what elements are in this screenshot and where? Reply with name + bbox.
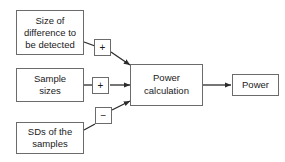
node-power-output[interactable]: Power — [233, 75, 279, 96]
connector-minus-to-process-bottom — [112, 101, 130, 110]
node-size-of-difference[interactable]: Size of difference to be detected — [17, 11, 84, 55]
node-power-calculation[interactable]: Power calculation — [131, 65, 203, 106]
operator-minus-bottom[interactable]: − — [96, 108, 112, 124]
node-sds-of-samples-line2: samples — [32, 138, 68, 149]
operator-plus-middle-label: + — [98, 80, 104, 91]
node-sds-of-samples[interactable]: SDs of the samples — [17, 123, 84, 154]
connector-size-to-plus — [84, 42, 95, 46]
node-sds-of-samples-line1: SDs of the — [28, 126, 72, 137]
node-power-calculation-line2: calculation — [144, 85, 189, 96]
node-size-of-difference-line1: Size of — [35, 15, 64, 26]
operator-plus-top-label: + — [100, 42, 106, 53]
node-power-calculation-line1: Power — [153, 72, 180, 83]
flowchart-canvas: Size of difference to be detected + Samp… — [0, 0, 285, 162]
operator-plus-top[interactable]: + — [95, 40, 111, 56]
node-power-output-label: Power — [242, 79, 269, 90]
node-size-of-difference-line2: difference to — [24, 27, 76, 38]
node-sample-sizes-line2: sizes — [39, 85, 61, 96]
node-size-of-difference-line3: be detected — [25, 39, 75, 50]
operator-minus-bottom-label: − — [101, 110, 107, 121]
connector-plus-to-process-top — [111, 52, 130, 65]
connector-sds-to-minus — [84, 124, 95, 130]
flowchart-diagram: Size of difference to be detected + Samp… — [0, 0, 285, 162]
operator-plus-middle[interactable]: + — [93, 78, 109, 94]
node-sample-sizes[interactable]: Sample sizes — [17, 69, 84, 102]
node-sample-sizes-line1: Sample — [34, 73, 66, 84]
